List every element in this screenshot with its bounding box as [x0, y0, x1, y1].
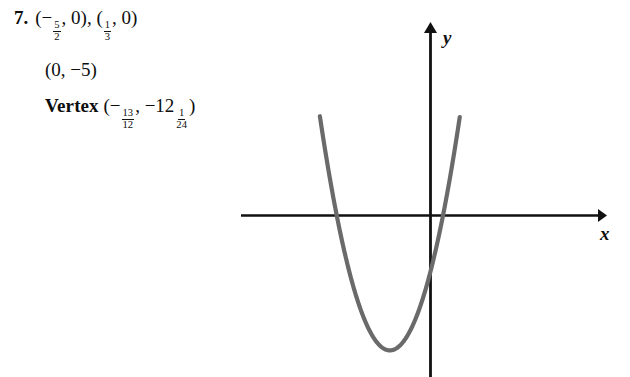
point-b-open-paren: ( [96, 7, 102, 28]
answer-line-intercepts: 7.(−52, 0), (13, 0) [14, 8, 264, 43]
y-axis [424, 22, 437, 377]
point-a-fraction: 52 [53, 20, 60, 43]
vertex-x-fraction: 1312 [122, 108, 135, 131]
vertex-comma: , [135, 95, 145, 116]
vertex-expression: Vertex (−1312, −12124) [45, 96, 195, 131]
point-a-y: 0 [71, 7, 81, 28]
vertex-y-whole: 12 [155, 95, 174, 116]
answer-line-y-intercept: (0, −5) [14, 60, 264, 79]
point-b: (13, 0) [96, 7, 137, 28]
y-axis-label: y [441, 27, 452, 48]
problem-number: 7. [14, 7, 28, 28]
point-b-fraction: 13 [104, 20, 111, 43]
answer-line-vertex: Vertex (−1312, −12124) [14, 96, 264, 131]
x-axis [241, 209, 607, 222]
y-axis-arrowhead [424, 22, 437, 33]
x-axis-arrowhead [598, 209, 607, 222]
point-b-denominator: 3 [104, 32, 111, 43]
answer-text-block: 7.(−52, 0), (13, 0) (0, −5) Vertex (−131… [14, 8, 264, 148]
vertex-label: Vertex [45, 95, 99, 116]
vertex-y-fraction: 124 [175, 108, 188, 131]
answer-key-page: 7.(−52, 0), (13, 0) (0, −5) Vertex (−131… [0, 0, 630, 377]
vertex-y-mixed-number: 12124 [155, 96, 189, 131]
vertex-y-denominator: 24 [175, 120, 188, 131]
point-a-denominator: 2 [53, 32, 60, 43]
parabola-curve [320, 116, 460, 350]
vertex-x-denominator: 12 [122, 120, 135, 131]
vertex-close-paren: ) [189, 95, 195, 116]
point-a-sign: − [42, 7, 53, 28]
point-b-comma: , [112, 7, 122, 28]
point-b-y: 0 [122, 7, 132, 28]
vertex-y-sign: − [145, 95, 156, 116]
point-b-close-paren: ) [131, 7, 137, 28]
y-intercept-point: (0, −5) [45, 60, 97, 79]
point-a-comma: , [62, 7, 72, 28]
point-a: (−52, 0) [35, 7, 87, 28]
x-axis-label: x [599, 223, 610, 244]
point-separator: , [87, 7, 97, 28]
vertex-open-paren: ( [99, 95, 110, 116]
parabola-graph: y x [230, 0, 630, 377]
vertex-x-sign: − [110, 95, 121, 116]
